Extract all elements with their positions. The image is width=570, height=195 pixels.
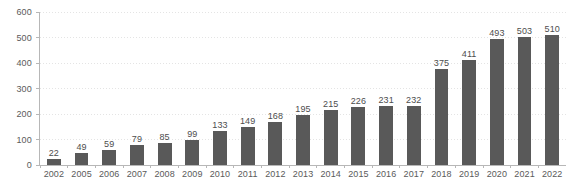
bar-slot: 49 xyxy=(68,12,96,165)
bar-value-label: 493 xyxy=(483,28,511,38)
x-tick-mark xyxy=(261,165,262,168)
bar[interactable] xyxy=(351,107,365,165)
bar[interactable] xyxy=(102,150,116,165)
bar[interactable] xyxy=(324,110,338,165)
bar-value-label: 133 xyxy=(206,120,234,130)
x-tick-mark xyxy=(150,165,151,168)
x-tick-label: 2002 xyxy=(40,169,68,179)
x-tick-label: 2017 xyxy=(400,169,428,179)
bar-value-label: 149 xyxy=(234,116,262,126)
bar-slot: 232 xyxy=(400,12,428,165)
bar-slot: 493 xyxy=(483,12,511,165)
bar-slot: 59 xyxy=(95,12,123,165)
x-tick-mark xyxy=(427,165,428,168)
y-tick-label: 300 xyxy=(16,84,32,94)
x-tick-mark xyxy=(510,165,511,168)
x-axis-labels: 2002200520062007200820092010201120122013… xyxy=(40,169,566,179)
y-tick-label: 200 xyxy=(16,109,32,119)
bar[interactable] xyxy=(241,127,255,165)
x-tick-label: 2019 xyxy=(455,169,483,179)
bar[interactable] xyxy=(379,106,393,165)
x-tick-label: 2022 xyxy=(538,169,566,179)
x-tick-label: 2008 xyxy=(151,169,179,179)
bar[interactable] xyxy=(130,145,144,165)
x-tick-mark xyxy=(483,165,484,168)
x-tick-label: 2013 xyxy=(289,169,317,179)
x-tick-label: 2007 xyxy=(123,169,151,179)
bar-value-label: 79 xyxy=(123,134,151,144)
x-tick-mark xyxy=(372,165,373,168)
bar[interactable] xyxy=(518,37,532,165)
x-tick-mark xyxy=(95,165,96,168)
bar[interactable] xyxy=(158,143,172,165)
bar[interactable] xyxy=(268,122,282,165)
bar[interactable] xyxy=(296,115,310,165)
bar-value-label: 22 xyxy=(40,148,68,158)
bar-slot: 503 xyxy=(511,12,539,165)
bar[interactable] xyxy=(490,39,504,165)
x-tick-mark xyxy=(40,165,41,168)
bar-slot: 168 xyxy=(262,12,290,165)
bar-value-label: 510 xyxy=(538,24,566,34)
x-tick-mark xyxy=(206,165,207,168)
bar[interactable] xyxy=(75,153,89,165)
bar[interactable] xyxy=(407,106,421,165)
x-tick-label: 2011 xyxy=(234,169,262,179)
bar-value-label: 226 xyxy=(345,96,373,106)
bar-slot: 231 xyxy=(372,12,400,165)
bar-value-label: 232 xyxy=(400,95,428,105)
bar-value-label: 85 xyxy=(151,132,179,142)
bar-value-label: 375 xyxy=(428,58,456,68)
y-tick-label: 500 xyxy=(16,33,32,43)
y-tick-label: 0 xyxy=(27,160,32,170)
bar-slot: 79 xyxy=(123,12,151,165)
bar-value-label: 215 xyxy=(317,99,345,109)
bar-value-label: 231 xyxy=(372,95,400,105)
bar-slot: 22 xyxy=(40,12,68,165)
x-tick-label: 2006 xyxy=(95,169,123,179)
x-tick-label: 2021 xyxy=(511,169,539,179)
bar-value-label: 168 xyxy=(262,111,290,121)
x-tick-label: 2020 xyxy=(483,169,511,179)
bar-value-label: 49 xyxy=(68,142,96,152)
x-tick-mark xyxy=(233,165,234,168)
x-tick-label: 2015 xyxy=(345,169,373,179)
bar-slot: 215 xyxy=(317,12,345,165)
bar-chart: 6005004003002001000 22495979859913314916… xyxy=(0,0,570,195)
bar-value-label: 99 xyxy=(178,129,206,139)
x-tick-mark xyxy=(344,165,345,168)
y-tick-label: 400 xyxy=(16,58,32,68)
x-tick-label: 2014 xyxy=(317,169,345,179)
bars-layer: 2249597985991331491681952152262312323754… xyxy=(40,12,566,165)
bar-slot: 226 xyxy=(345,12,373,165)
bar-slot: 85 xyxy=(151,12,179,165)
y-tick-label: 100 xyxy=(16,135,32,145)
x-tick-label: 2016 xyxy=(372,169,400,179)
x-tick-mark xyxy=(399,165,400,168)
x-tick-label: 2012 xyxy=(262,169,290,179)
bar-value-label: 195 xyxy=(289,104,317,114)
bar-slot: 375 xyxy=(428,12,456,165)
bar[interactable] xyxy=(545,35,559,165)
bar-slot: 99 xyxy=(178,12,206,165)
bar-slot: 411 xyxy=(455,12,483,165)
x-tick-mark xyxy=(538,165,539,168)
bar[interactable] xyxy=(185,140,199,165)
x-tick-label: 2010 xyxy=(206,169,234,179)
y-tick-label: 600 xyxy=(16,7,32,17)
bar-slot: 133 xyxy=(206,12,234,165)
x-tick-mark xyxy=(316,165,317,168)
bar-value-label: 59 xyxy=(95,139,123,149)
bar-value-label: 503 xyxy=(511,26,539,36)
bar[interactable] xyxy=(462,60,476,165)
bar[interactable] xyxy=(435,69,449,165)
x-tick-label: 2005 xyxy=(68,169,96,179)
bar-slot: 195 xyxy=(289,12,317,165)
x-tick-mark xyxy=(123,165,124,168)
x-tick-label: 2018 xyxy=(428,169,456,179)
x-tick-label: 2009 xyxy=(178,169,206,179)
bar[interactable] xyxy=(213,131,227,165)
x-tick-mark xyxy=(178,165,179,168)
x-tick-mark xyxy=(289,165,290,168)
bar[interactable] xyxy=(47,159,61,165)
